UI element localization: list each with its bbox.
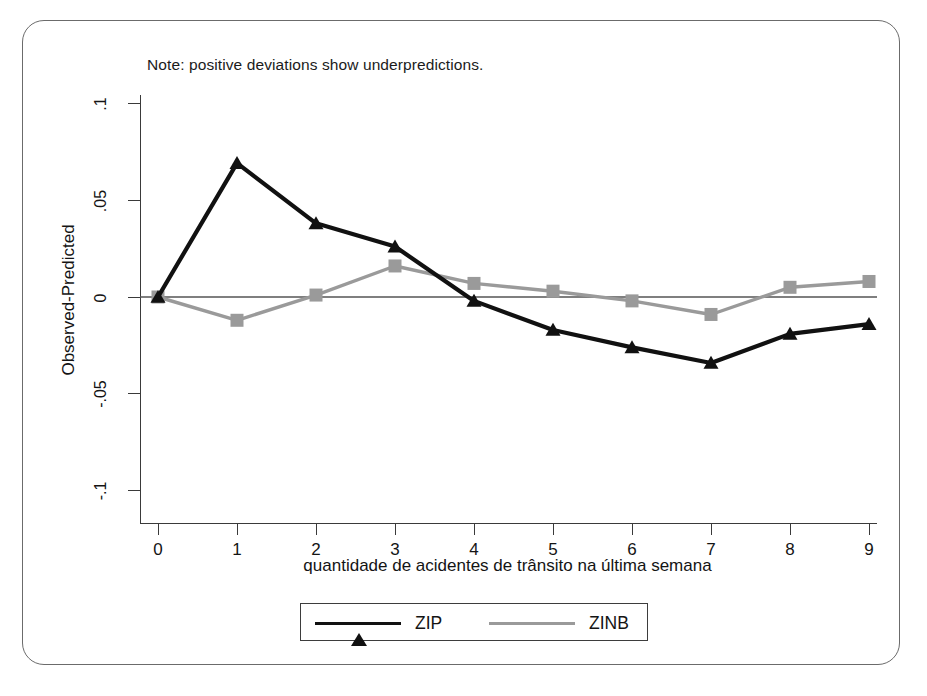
x-tick-mark: [790, 524, 791, 535]
triangle-marker: [309, 216, 324, 229]
square-marker: [784, 281, 797, 294]
x-tick-mark: [632, 524, 633, 535]
triangle-marker: [862, 317, 877, 330]
y-tick-label: -.05: [92, 371, 110, 417]
triangle-marker: [388, 239, 403, 252]
square-marker: [626, 294, 639, 307]
x-tick-mark: [395, 524, 396, 535]
square-marker: [547, 285, 560, 298]
y-tick-label: .1: [92, 81, 110, 127]
series-line: [158, 163, 869, 363]
y-tick-label: .05: [92, 178, 110, 224]
y-tick-label: -.1: [92, 468, 110, 514]
square-marker: [389, 259, 402, 272]
x-axis-label: quantidade de acidentes de trânsito na ú…: [140, 556, 875, 576]
x-tick-mark: [158, 524, 159, 535]
legend-line-zinb: [489, 622, 575, 625]
chart-note: Note: positive deviations show underpred…: [147, 56, 484, 74]
x-tick-mark: [474, 524, 475, 535]
y-tick-mark: [128, 393, 140, 394]
legend-key-zip: [315, 613, 401, 633]
series-zip: [151, 156, 877, 369]
y-tick-mark: [128, 297, 140, 298]
y-tick-mark: [128, 103, 140, 104]
square-marker: [863, 275, 876, 288]
triangle-marker: [230, 156, 245, 169]
y-tick-label: 0: [92, 275, 110, 321]
chart-figure: Note: positive deviations show underpred…: [0, 0, 927, 696]
legend-label-zip: ZIP: [415, 613, 442, 634]
series-zinb: [152, 259, 876, 326]
x-tick-mark: [237, 524, 238, 535]
triangle-marker: [625, 340, 640, 353]
square-marker: [152, 291, 165, 304]
triangle-marker: [783, 327, 798, 340]
legend-item-zip[interactable]: ZIP: [315, 604, 442, 642]
triangle-marker: [467, 294, 482, 307]
triangle-marker: [546, 323, 561, 336]
legend-item-zinb[interactable]: ZINB: [489, 604, 629, 642]
x-tick-mark: [316, 524, 317, 535]
series-line: [158, 266, 869, 320]
legend-key-zinb: [489, 613, 575, 633]
x-tick-mark: [553, 524, 554, 535]
y-axis-label: Observed-Predicted: [59, 185, 79, 415]
legend-label-zinb: ZINB: [589, 613, 629, 634]
square-marker: [310, 289, 323, 302]
triangle-marker: [151, 290, 166, 303]
y-axis-line: [140, 95, 141, 524]
y-tick-mark: [128, 490, 140, 491]
x-tick-mark: [869, 524, 870, 535]
x-tick-mark: [711, 524, 712, 535]
triangle-icon: [351, 616, 367, 634]
chart-legend: ZIP ZINB: [300, 603, 648, 641]
x-axis-line: [140, 523, 877, 524]
square-marker: [468, 277, 481, 290]
y-tick-mark: [128, 200, 140, 201]
square-marker: [231, 314, 244, 327]
square-marker: [705, 308, 718, 321]
triangle-marker: [704, 356, 719, 369]
